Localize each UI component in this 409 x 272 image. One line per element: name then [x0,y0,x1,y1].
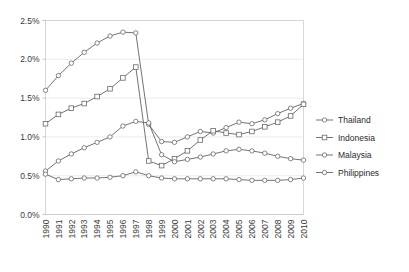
data-point-marker [224,177,228,181]
data-point-marker [134,170,138,174]
x-tick-label: 1995 [105,219,115,238]
data-point-marker [95,41,99,45]
data-point-marker [288,156,292,160]
legend-marker [322,153,326,157]
data-point-marker [134,119,138,123]
data-point-marker [172,177,176,181]
data-point-marker [237,177,241,181]
data-point-marker [237,132,242,137]
y-tick-label: 2.0% [20,54,40,64]
x-tick-label: 2005 [234,219,244,238]
chart-legend: ThailandIndonesiaMalaysiaPhilippines [316,115,379,178]
y-tick-label: 1.5% [20,93,40,103]
x-tick-label: 2010 [299,219,309,238]
data-point-marker [198,155,202,159]
legend-marker [322,118,326,122]
x-tick-label: 2000 [170,219,180,238]
x-axis-tick-labels: 1990199119921993199419951996199719981999… [41,219,309,238]
x-tick-label: 2003 [208,219,218,238]
legend-marker [322,170,326,174]
data-point-marker [250,129,255,134]
data-point-marker [159,139,163,143]
data-point-marker [108,34,112,38]
data-point-marker [108,175,112,179]
y-tick-label: 1.0% [20,132,40,142]
x-tick-label: 1999 [157,219,167,238]
data-point-marker [250,149,254,153]
data-point-marker [237,147,241,151]
y-axis-tick-labels: 0.0%0.5%1.0%1.5%2.0%2.5% [20,16,45,220]
data-point-marker [69,152,73,156]
data-point-marker [134,31,138,35]
x-tick-label: 2002 [196,219,206,238]
data-point-marker [108,86,113,91]
data-point-marker [224,131,229,136]
data-point-marker [121,76,126,81]
x-tick-label: 1994 [92,219,102,238]
x-tick-label: 1991 [54,219,64,238]
data-point-marker [250,178,254,182]
data-point-marker [288,106,292,110]
data-point-marker [276,111,280,115]
x-tick-label: 1998 [144,219,154,238]
data-point-marker [147,121,151,125]
x-tick-label: 1993 [79,219,89,238]
data-point-marker [263,125,268,130]
data-point-marker [82,101,87,106]
data-point-marker [108,135,112,139]
data-point-marker [147,174,151,178]
data-point-marker [121,30,125,34]
y-tick-label: 2.5% [20,16,40,26]
data-point-marker [211,152,215,156]
data-point-marker [185,149,190,154]
data-point-marker [82,146,86,150]
x-tick-label: 2008 [273,219,283,238]
legend-label: Thailand [338,115,371,125]
x-tick-label: 1996 [118,219,128,238]
data-point-marker [95,94,100,99]
legend-item-thailand: Thailand [316,115,371,125]
data-point-marker [172,160,176,164]
data-point-marker [211,128,216,133]
data-point-marker [276,178,280,182]
legend-label: Malaysia [338,150,372,160]
x-tick-label: 2006 [247,219,257,238]
data-point-marker [69,106,74,111]
data-point-marker [56,73,60,77]
data-point-marker [250,122,254,126]
legend-marker [322,135,327,140]
line-chart: 0.0%0.5%1.0%1.5%2.0%2.5% 199019911992199… [0,0,409,272]
data-point-marker [263,178,267,182]
data-point-marker [263,151,267,155]
data-point-marker [301,176,305,180]
data-point-marker [56,159,60,163]
data-point-marker [56,177,60,181]
x-tick-label: 2001 [183,219,193,238]
data-point-marker [95,176,99,180]
legend-item-malaysia: Malaysia [316,150,372,160]
data-point-marker [263,118,267,122]
data-point-marker [276,154,280,158]
y-tick-label: 0.5% [20,171,40,181]
data-point-marker [185,135,189,139]
data-point-marker [134,65,139,70]
data-point-marker [95,140,99,144]
data-point-marker [121,124,125,128]
data-point-marker [224,125,228,129]
data-point-marker [288,177,292,181]
series-philippines [43,170,305,183]
data-point-marker [198,138,203,143]
x-tick-label: 2004 [221,219,231,238]
chart-canvas: 0.0%0.5%1.0%1.5%2.0%2.5% 199019911992199… [0,0,409,272]
x-tick-label: 2007 [260,219,270,238]
data-point-marker [43,121,48,126]
data-series-layer [43,30,306,183]
data-point-marker [69,177,73,181]
data-point-marker [43,172,47,176]
data-point-marker [301,102,306,107]
data-point-marker [82,50,86,54]
data-point-marker [224,149,228,153]
legend-item-indonesia: Indonesia [316,133,375,143]
data-point-marker [146,159,151,164]
data-point-marker [43,88,47,92]
